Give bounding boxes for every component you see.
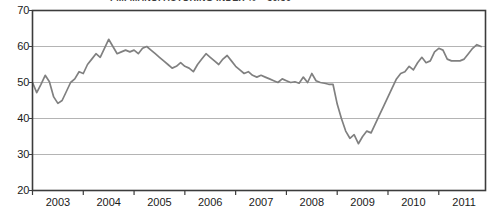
x-axis-tick-label: 2009 <box>341 197 385 208</box>
y-axis-tick-label: 20 <box>4 185 30 196</box>
x-axis-tick-label: 2004 <box>87 197 131 208</box>
chart-plot-area <box>0 0 492 219</box>
y-axis-tick-label: 60 <box>4 41 30 52</box>
x-axis-tick-label: 2006 <box>188 197 232 208</box>
x-axis-tick-label: 2003 <box>36 197 80 208</box>
x-axis-tick-label: 2008 <box>290 197 334 208</box>
pmi-line-chart: PMI MANUFACTURING INDEX % + 50/50 203040… <box>0 0 492 219</box>
plot-background <box>33 11 486 191</box>
y-axis-tick-label: 30 <box>4 149 30 160</box>
x-axis-tick-label: 2007 <box>239 197 283 208</box>
x-axis-tick-label: 2011 <box>442 197 486 208</box>
y-axis-tick-label: 40 <box>4 113 30 124</box>
x-axis-tick-label: 2005 <box>137 197 181 208</box>
x-axis-tick-label: 2010 <box>391 197 435 208</box>
y-axis-tick-label: 50 <box>4 77 30 88</box>
y-axis-tick-label: 70 <box>4 5 30 16</box>
